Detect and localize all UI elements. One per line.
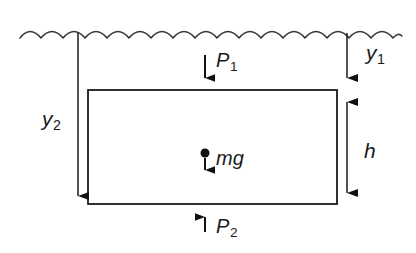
- label-y2-base: y: [42, 107, 53, 130]
- label-mg-base: mg: [216, 147, 244, 169]
- label-p2: P2: [216, 216, 237, 236]
- label-p1-sub: 1: [230, 59, 238, 74]
- label-p1: P1: [216, 50, 237, 70]
- label-p1-base: P: [216, 49, 229, 71]
- label-p2-base: P: [216, 215, 229, 237]
- label-mg: mg: [216, 148, 244, 168]
- label-h-base: h: [364, 139, 376, 162]
- label-y2-sub: 2: [53, 117, 61, 133]
- center-of-mass-dot: [201, 149, 210, 158]
- submerged-block: [88, 90, 337, 204]
- label-y1-base: y: [366, 41, 377, 64]
- weight-force: [201, 149, 210, 171]
- label-h: h: [364, 140, 376, 161]
- label-y1: y1: [366, 42, 384, 63]
- diagram-canvas: [0, 0, 416, 253]
- label-y1-sub: 1: [377, 51, 385, 67]
- label-y2: y2: [42, 108, 60, 129]
- buoyancy-diagram: y1 y2 h P1 P2 mg: [0, 0, 416, 253]
- label-p2-sub: 2: [230, 225, 238, 240]
